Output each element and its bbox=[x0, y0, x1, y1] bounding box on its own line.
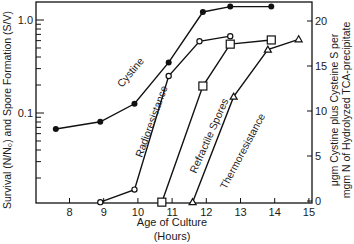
marker-radioresistance bbox=[132, 187, 137, 192]
marker-cystine bbox=[227, 4, 233, 10]
curve-labels: CystineRadioresistanceRefractile SporesT… bbox=[114, 55, 267, 191]
marker-refractile-spores bbox=[226, 40, 234, 48]
marker-cystine bbox=[97, 119, 103, 125]
plot-border bbox=[36, 2, 312, 203]
marker-thermoresistance bbox=[295, 36, 302, 42]
series-line-cystine bbox=[56, 7, 271, 129]
marker-cystine bbox=[53, 126, 59, 132]
y-left-tick-label: 1.0 bbox=[18, 14, 33, 26]
x-axis-units: (Hours) bbox=[154, 230, 191, 242]
y-left-tick-label: 0.1 bbox=[18, 107, 33, 119]
marker-radioresistance bbox=[98, 200, 103, 205]
y-axis-right-label-line2: mgm N of Hydrolyzed TCA-precipitate bbox=[340, 22, 352, 199]
marker-refractile-spores bbox=[158, 198, 166, 206]
marker-refractile-spores bbox=[267, 36, 275, 44]
marker-cystine bbox=[200, 9, 206, 15]
marker-thermoresistance bbox=[189, 199, 196, 205]
y-right-tick-label: 5 bbox=[315, 150, 321, 162]
curve-label-cystine: Cystine bbox=[114, 55, 146, 90]
x-tick-label: 14 bbox=[269, 206, 281, 218]
marker-refractile-spores bbox=[199, 82, 207, 90]
series-group bbox=[53, 4, 302, 207]
y-axis-right: 05101520 bbox=[307, 15, 327, 207]
x-axis-label: Age of Culture bbox=[137, 216, 207, 228]
curve-label-refractile-spores: Refractile Spores bbox=[187, 96, 231, 174]
x-tick-label: 15 bbox=[303, 206, 315, 218]
marker-radioresistance bbox=[228, 34, 233, 39]
y-right-tick-label: 10 bbox=[315, 105, 327, 117]
y-axis-left: 1.00.1 bbox=[18, 14, 44, 178]
chart: 89101112131415 1.00.1 05101520 Age of Cu… bbox=[0, 0, 354, 244]
y-right-tick-label: 0 bbox=[315, 195, 321, 207]
marker-cystine bbox=[166, 59, 172, 65]
marker-cystine bbox=[131, 101, 137, 107]
marker-radioresistance bbox=[166, 73, 171, 78]
marker-radioresistance bbox=[197, 39, 202, 44]
curve-label-radioresistance: Radioresistance bbox=[133, 84, 170, 159]
y-axis-right-label-line1: μgm Cystine plus Cysteine S per bbox=[328, 33, 340, 186]
marker-cystine bbox=[268, 4, 274, 10]
x-tick-label: 13 bbox=[234, 206, 246, 218]
y-right-tick-label: 20 bbox=[315, 15, 327, 27]
x-tick-label: 9 bbox=[101, 206, 107, 218]
x-tick-label: 8 bbox=[66, 206, 72, 218]
y-right-tick-label: 15 bbox=[315, 60, 327, 72]
plot-frame bbox=[36, 2, 312, 203]
y-axis-left-label: Survival (N/N₀) and Spore Formation (S/V… bbox=[1, 11, 13, 209]
curve-label-thermoresistance: Thermoresistance bbox=[217, 111, 267, 191]
